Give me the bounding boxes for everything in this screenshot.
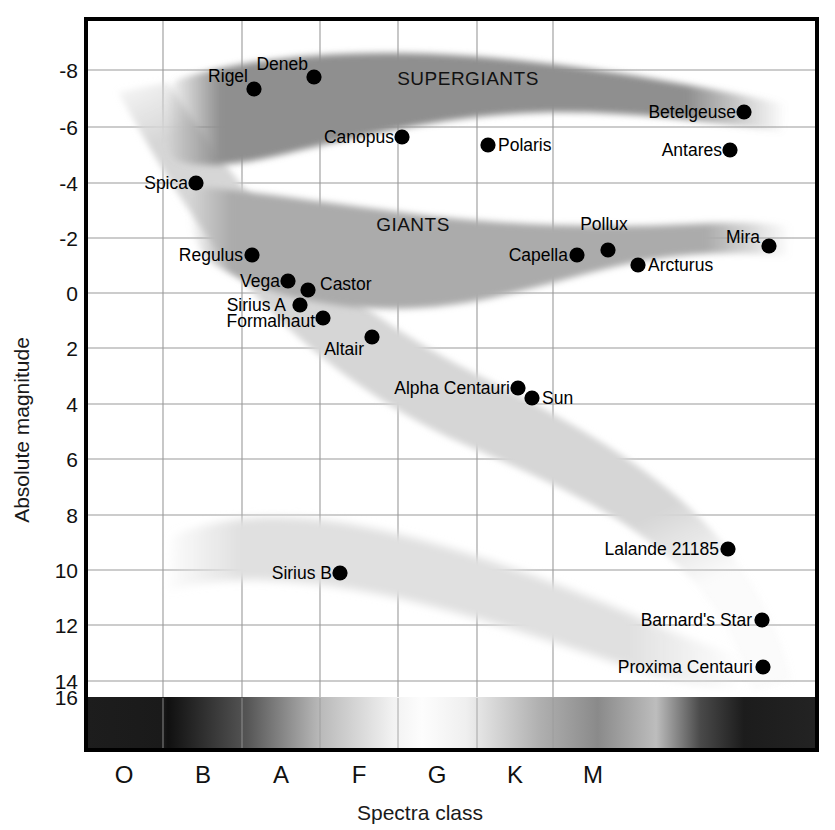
star-label: Altair: [324, 339, 364, 359]
y-tick-label: -6: [59, 116, 78, 139]
star-label: Castor: [320, 274, 372, 294]
star-label: Canopus: [324, 127, 394, 147]
y-tick-labels: -8 -6 -4 -2 0 2 4 6 8 10 12 14 16: [55, 59, 79, 709]
star-label: Mira: [726, 227, 760, 247]
x-tick-labels: O B A F G K M: [115, 761, 603, 788]
star-dot[interactable]: [364, 329, 379, 344]
star-label: Sun: [542, 388, 573, 408]
star-dot[interactable]: [755, 659, 770, 674]
star-label: Proxima Centauri: [618, 657, 753, 677]
star-label: Barnard's Star: [641, 610, 752, 630]
x-tick-label-G: G: [428, 761, 447, 788]
star-dot[interactable]: [244, 247, 259, 262]
spectral-colour-strip: [86, 697, 817, 750]
y-tick-label: -4: [59, 172, 78, 195]
y-tick-label: 2: [66, 337, 78, 360]
y-tick-label: 6: [66, 448, 78, 471]
region-label-supergiants: SUPERGIANTS: [397, 68, 539, 89]
y-tick-label: 4: [66, 393, 78, 416]
star-dot[interactable]: [510, 380, 525, 395]
star-label: Spica: [144, 173, 188, 193]
x-axis-title: Spectra class: [357, 801, 483, 824]
star-label: Rigel: [208, 66, 248, 86]
x-tick-label-A: A: [273, 761, 289, 788]
y-tick-label: 16: [55, 686, 78, 709]
y-tick-label: 12: [55, 614, 78, 637]
x-tick-label-F: F: [352, 761, 367, 788]
star-dot[interactable]: [722, 142, 737, 157]
y-tick-label: -8: [59, 59, 78, 82]
star-dot[interactable]: [188, 175, 203, 190]
star-label: Betelgeuse: [648, 102, 736, 122]
star-marker[interactable]: Proxima Centauri: [618, 657, 771, 677]
star-label: Lalande 21185: [604, 539, 719, 559]
star-label: Polaris: [498, 135, 552, 155]
star-label: Sirius B: [272, 563, 332, 583]
star-label: Capella: [509, 245, 569, 265]
star-marker[interactable]: Alpha Centauri: [394, 378, 525, 398]
star-dot[interactable]: [524, 390, 539, 405]
star-label: Alpha Centauri: [394, 378, 510, 398]
x-tick-label-B: B: [195, 761, 211, 788]
x-tick-label-O: O: [115, 761, 134, 788]
star-dot[interactable]: [600, 242, 615, 257]
star-dot[interactable]: [280, 273, 295, 288]
star-dot[interactable]: [300, 282, 315, 297]
star-dot[interactable]: [754, 612, 769, 627]
star-dot[interactable]: [761, 238, 776, 253]
star-dot[interactable]: [306, 69, 321, 84]
star-dot[interactable]: [246, 81, 261, 96]
y-tick-label: 0: [66, 282, 78, 305]
y-tick-label: 10: [55, 559, 78, 582]
star-marker[interactable]: Sun: [524, 388, 573, 408]
star-label: Deneb: [256, 54, 308, 74]
hr-diagram-figure: -8 -6 -4 -2 0 2 4 6 8 10 12 14 16: [0, 0, 835, 830]
star-label: Regulus: [179, 245, 243, 265]
hr-diagram-svg: -8 -6 -4 -2 0 2 4 6 8 10 12 14 16: [0, 0, 835, 830]
y-tick-label: -2: [59, 227, 78, 250]
y-tick-label: 8: [66, 504, 78, 527]
star-dot[interactable]: [315, 310, 330, 325]
star-marker[interactable]: Formalhaut: [226, 310, 330, 331]
star-dot[interactable]: [630, 257, 645, 272]
star-dot[interactable]: [569, 247, 584, 262]
star-marker[interactable]: Spica: [144, 173, 203, 193]
star-dot[interactable]: [736, 104, 751, 119]
star-marker[interactable]: Barnard's Star: [641, 610, 770, 630]
star-marker[interactable]: Lalande 21185: [604, 539, 735, 559]
star-dot[interactable]: [394, 129, 409, 144]
star-label: Formalhaut: [226, 311, 315, 331]
star-marker[interactable]: Vega: [240, 271, 296, 291]
star-label: Arcturus: [648, 255, 713, 275]
star-dot[interactable]: [332, 565, 347, 580]
y-axis-title: Absolute magnitude: [10, 337, 33, 523]
x-tick-label-M: M: [583, 761, 603, 788]
star-dot[interactable]: [720, 541, 735, 556]
region-label-giants: GIANTS: [376, 214, 450, 235]
star-label: Vega: [240, 271, 280, 291]
star-label: Pollux: [580, 214, 628, 234]
x-tick-label-K: K: [507, 761, 523, 788]
star-label: Antares: [662, 140, 723, 160]
star-dot[interactable]: [480, 137, 495, 152]
